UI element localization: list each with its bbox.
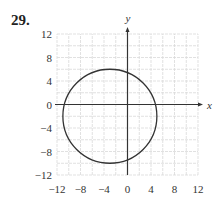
y-tick-label: 8: [47, 52, 53, 64]
x-tick-label: 8: [172, 183, 178, 195]
y-tick-label: −12: [35, 169, 52, 181]
y-axis-arrow-icon: [126, 27, 130, 32]
tick-labels: −12−8−40481212840−4−8−12: [35, 28, 204, 195]
y-tick-label: −4: [40, 122, 52, 134]
y-tick-label: 12: [41, 28, 52, 40]
x-tick-label: 4: [148, 183, 154, 195]
y-tick-label: 0: [47, 99, 53, 111]
y-axis-label: y: [125, 12, 131, 24]
x-axis-arrow-icon: [198, 103, 203, 107]
circle-graph: xy −12−8−40481212840−4−8−12: [0, 0, 220, 200]
x-tick-label: 0: [125, 183, 131, 195]
y-tick-label: −8: [40, 146, 52, 158]
x-tick-label: −8: [75, 183, 87, 195]
x-tick-label: −12: [48, 183, 65, 195]
x-tick-label: −4: [98, 183, 110, 195]
x-axis-label: x: [206, 99, 212, 111]
x-tick-label: 12: [193, 183, 204, 195]
y-tick-label: 4: [47, 75, 53, 87]
